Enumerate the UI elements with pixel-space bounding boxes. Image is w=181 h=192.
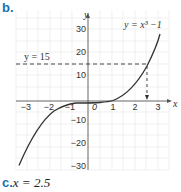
cubic-graph: y x 30 20 10 −10 −20 −30 −3 −2 −1 1 2 3 …: [0, 0, 181, 192]
y-axis-label: y: [83, 9, 89, 20]
svg-text:1: 1: [110, 102, 115, 112]
hline-label: y = 15: [24, 51, 50, 62]
y-ticks: 30 20 10 −10 −20 −30: [71, 24, 86, 171]
svg-text:20: 20: [76, 47, 86, 57]
svg-text:−30: −30: [71, 161, 86, 171]
answer-text: x = 2.5: [13, 175, 50, 190]
answer-label: c.: [2, 175, 13, 190]
svg-text:3: 3: [155, 102, 160, 112]
svg-text:−20: −20: [71, 138, 86, 148]
svg-text:−2: −2: [44, 102, 54, 112]
svg-text:−3: −3: [21, 102, 31, 112]
curve-label: y = x³ −1: [123, 19, 162, 30]
svg-text:30: 30: [76, 24, 86, 34]
origin-label: 0: [92, 102, 97, 112]
answer: c.x = 2.5: [2, 175, 50, 191]
x-axis-arrow-icon: [167, 99, 172, 103]
svg-text:10: 10: [76, 70, 86, 80]
svg-text:−10: −10: [71, 115, 86, 125]
svg-text:2: 2: [132, 102, 137, 112]
down-arrow-icon: [145, 95, 149, 100]
grid: [16, 10, 169, 170]
x-axis-label: x: [172, 98, 178, 109]
